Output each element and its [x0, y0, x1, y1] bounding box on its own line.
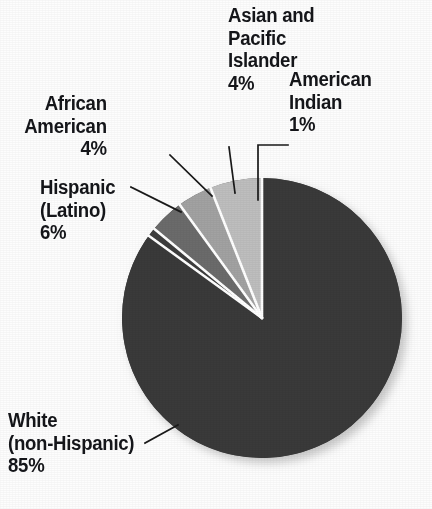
label-line: African [24, 92, 107, 115]
label-line: (Latino) [40, 199, 115, 222]
leader-line-hispanic [131, 187, 181, 212]
label-value: 4% [24, 137, 107, 160]
label-american-indian: American Indian 1% [289, 68, 372, 136]
leader-line-white [145, 425, 178, 443]
label-line: Hispanic [40, 176, 115, 199]
label-hispanic-latino: Hispanic (Latino) 6% [40, 176, 115, 244]
pie-chart-figure: Asian and Pacific Islander 4% American I… [0, 0, 432, 509]
leader-line-african-american [170, 155, 212, 196]
label-line: Asian and [228, 4, 314, 27]
label-line: Pacific [228, 27, 314, 50]
label-line: American [289, 68, 372, 91]
label-line: White [8, 409, 134, 432]
label-line: American [24, 115, 107, 138]
label-value: 1% [289, 113, 372, 136]
label-value: 6% [40, 221, 115, 244]
label-line: (non-Hispanic) [8, 432, 134, 455]
label-value: 85% [8, 454, 134, 477]
label-white-non-hispanic: White (non-Hispanic) 85% [8, 409, 134, 477]
label-line: Indian [289, 91, 372, 114]
label-african-american: African American 4% [24, 92, 107, 160]
